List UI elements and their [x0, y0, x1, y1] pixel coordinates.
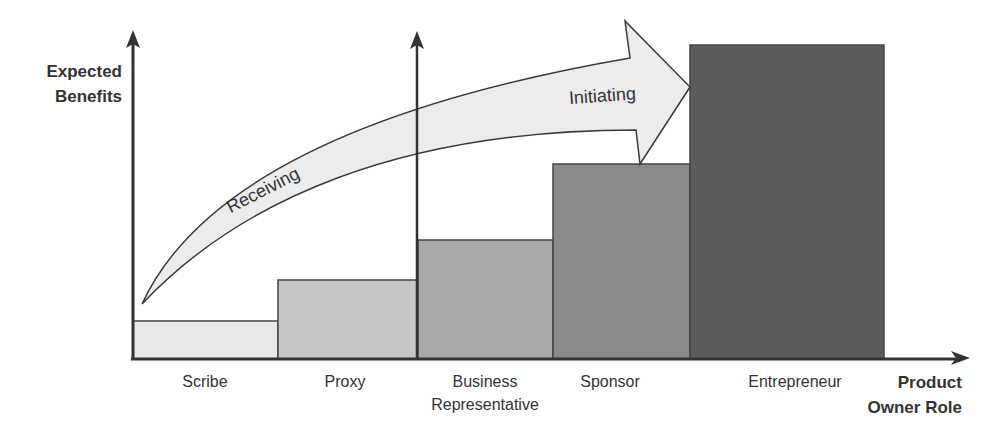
bar-sponsor — [553, 164, 690, 359]
x-axis-title-line-1: Product — [862, 370, 962, 395]
category-label-text: Business — [415, 370, 555, 393]
x-axis-title: Product Owner Role — [862, 370, 962, 420]
bar-proxy — [278, 280, 418, 359]
product-owner-role-diagram: Expected Benefits Product Owner Role Rec… — [0, 0, 1006, 442]
category-label-scribe: Scribe — [140, 370, 270, 393]
category-label-proxy: Proxy — [280, 370, 410, 393]
category-label-text: Proxy — [280, 370, 410, 393]
bar-entrepreneur — [690, 45, 884, 359]
category-label-business-representative: Business Representative — [415, 370, 555, 416]
y-axis-title-line-1: Expected — [36, 59, 122, 84]
category-label-text: Sponsor — [550, 370, 670, 393]
bar-business-representative — [418, 240, 553, 359]
category-label-entrepreneur: Entrepreneur — [720, 370, 870, 393]
bar-scribe — [133, 321, 278, 359]
x-axis-title-line-2: Owner Role — [862, 395, 962, 420]
y-axis-title-line-2: Benefits — [36, 84, 122, 109]
category-label-text: Scribe — [140, 370, 270, 393]
y-axis-title: Expected Benefits — [36, 59, 122, 109]
category-label-text: Entrepreneur — [720, 370, 870, 393]
category-label-text: Representative — [415, 393, 555, 416]
category-label-sponsor: Sponsor — [550, 370, 670, 393]
